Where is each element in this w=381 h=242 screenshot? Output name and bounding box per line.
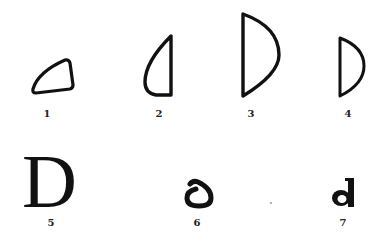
shape-2-half-round-icon	[145, 36, 171, 95]
stray-speck	[270, 202, 272, 204]
shape-5-serif-d-glyph: D	[22, 143, 77, 219]
label-3: 3	[248, 109, 255, 119]
shape-3-tall-d-icon	[243, 14, 279, 96]
label-2: 2	[156, 109, 163, 119]
label-1: 1	[44, 109, 51, 119]
shape-6-uncial-d-icon	[187, 181, 211, 206]
shape-7-minuscule-d-icon	[332, 178, 354, 207]
shape-4-small-d-icon	[340, 38, 364, 96]
label-5: 5	[48, 218, 55, 228]
shape-1-delta-icon	[33, 60, 73, 93]
label-6: 6	[194, 218, 201, 228]
label-4: 4	[345, 109, 352, 119]
label-7: 7	[340, 218, 347, 228]
